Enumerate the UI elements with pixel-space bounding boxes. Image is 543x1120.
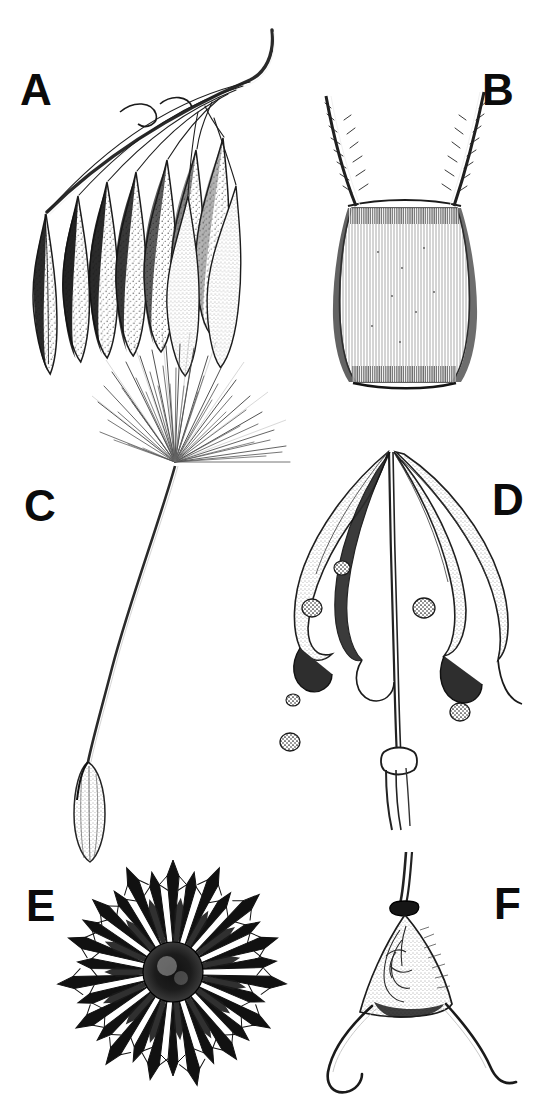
panel-label-d: D <box>492 478 524 522</box>
panel-label-f: F <box>494 882 521 926</box>
panel-label-b: B <box>482 68 514 112</box>
illustration-plate: A B C D E F <box>0 0 543 1120</box>
panel-label-c: C <box>24 484 56 528</box>
plate-canvas <box>0 0 543 1120</box>
panel-label-a: A <box>20 68 52 112</box>
panel-label-e: E <box>26 884 55 928</box>
